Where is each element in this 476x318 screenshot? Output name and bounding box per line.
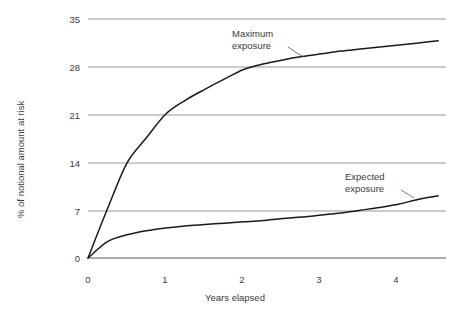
x-tick-label-2: 2	[239, 274, 244, 285]
y-tick-label-35: 35	[69, 14, 80, 25]
x-axis-title: Years elapsed	[205, 292, 265, 303]
x-tick-label-4: 4	[393, 274, 398, 285]
annotation-maximum-line2: exposure	[232, 40, 271, 51]
annotation-maximum-line1: Maximum	[232, 28, 273, 39]
y-tick-label-7: 7	[75, 206, 80, 217]
y-tick-label-14: 14	[69, 158, 80, 169]
x-tick-label-0: 0	[85, 274, 90, 285]
x-tick-label-3: 3	[316, 274, 321, 285]
chart-container: 35 28 21 14 7 0 0 1 2 3 4 % of notional …	[0, 0, 476, 318]
y-tick-label-0: 0	[75, 253, 80, 264]
exposure-profile-chart: 35 28 21 14 7 0 0 1 2 3 4 % of notional …	[0, 0, 476, 318]
annotation-expected-line2: exposure	[345, 183, 384, 194]
y-axis-title: % of notional amount at risk	[15, 101, 26, 218]
y-tick-label-28: 28	[69, 62, 80, 73]
y-tick-label-21: 21	[69, 110, 80, 121]
annotation-expected-line1: Expected	[345, 171, 385, 182]
x-tick-label-1: 1	[162, 274, 167, 285]
